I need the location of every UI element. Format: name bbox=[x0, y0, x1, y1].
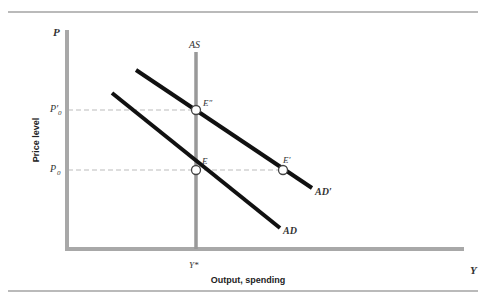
as-label: AS bbox=[188, 39, 200, 50]
point-e bbox=[192, 166, 201, 175]
svg-text:P: P bbox=[49, 163, 56, 174]
ad-as-diagram: P Y AS AD AD′ E″ E E′ P′ 0 P 0 Y* Price … bbox=[0, 0, 485, 303]
x-axis-title: Output, spending bbox=[211, 275, 286, 285]
svg-text:0: 0 bbox=[57, 169, 61, 177]
svg-text:0: 0 bbox=[58, 109, 62, 117]
y-axis-symbol: P bbox=[53, 26, 60, 38]
p0-tick-label: P 0 bbox=[49, 163, 61, 177]
point-e-double-prime bbox=[192, 106, 201, 115]
ad-label: AD bbox=[282, 225, 297, 236]
y-star-tick-label: Y* bbox=[189, 260, 199, 270]
x-axis-symbol: Y bbox=[470, 264, 478, 276]
e-prime-label: E′ bbox=[282, 155, 291, 165]
y-axis-title: Price level bbox=[31, 118, 41, 163]
e-label: E bbox=[201, 156, 208, 166]
point-e-prime bbox=[279, 166, 288, 175]
e-double-prime-label: E″ bbox=[202, 98, 212, 108]
p0-prime-tick-label: P′ 0 bbox=[49, 103, 62, 117]
ad-prime-label: AD′ bbox=[314, 186, 332, 197]
